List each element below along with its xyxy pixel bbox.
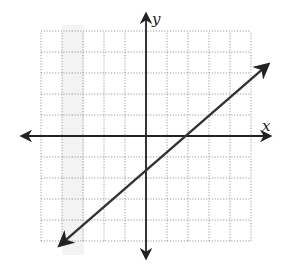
coordinate-plane: x y [0, 0, 290, 272]
series [60, 65, 268, 246]
series-line [60, 65, 268, 246]
axes [22, 14, 270, 258]
x-axis-label: x [262, 117, 271, 135]
y-axis-label: y [151, 10, 161, 28]
